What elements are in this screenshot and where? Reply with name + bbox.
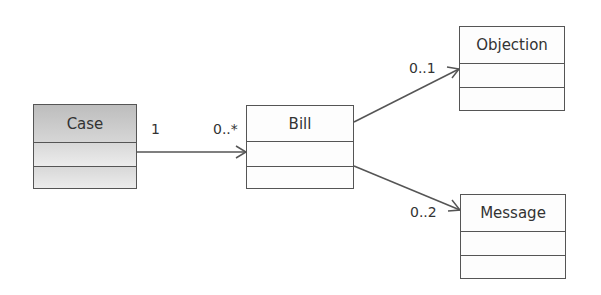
multiplicity-message-end: 0..2 [410,204,437,220]
class-objection[interactable]: Objection [459,26,565,111]
class-message[interactable]: Message [460,194,566,279]
attributes-compartment [461,232,565,256]
operations-compartment [461,256,565,278]
attributes-compartment [460,64,564,88]
association-bill-message [354,166,460,210]
uml-class-diagram: Case Bill Objection Message 1 0..* 0..1 … [0,0,601,295]
multiplicity-objection-end: 0..1 [409,60,436,76]
class-name: Bill [247,106,353,142]
operations-compartment [460,88,564,110]
association-bill-objection [354,69,459,122]
attributes-compartment [34,143,136,167]
operations-compartment [247,167,353,188]
class-name: Objection [460,27,564,64]
class-name: Message [461,195,565,232]
multiplicity-bill-end: 0..* [213,121,238,137]
operations-compartment [34,167,136,188]
multiplicity-case-end: 1 [151,121,160,137]
class-name: Case [34,105,136,143]
attributes-compartment [247,142,353,167]
class-case[interactable]: Case [33,104,137,189]
class-bill[interactable]: Bill [246,105,354,189]
